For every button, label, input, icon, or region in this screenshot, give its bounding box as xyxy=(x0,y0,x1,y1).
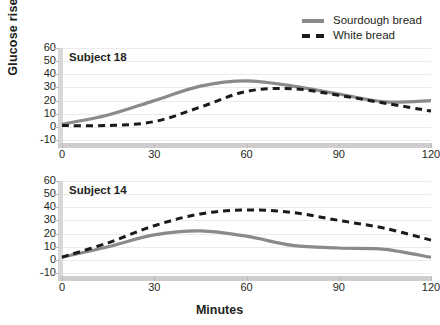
panel-title-subject-18: Subject 18 xyxy=(69,51,127,63)
series-line xyxy=(62,81,431,124)
legend-label-sourdough: Sourdough bread xyxy=(333,14,422,27)
y-tick-mark xyxy=(54,260,59,261)
panel-title-subject-14: Subject 14 xyxy=(69,184,127,196)
y-tick-mark xyxy=(54,247,59,248)
y-tick-label: 50 xyxy=(30,55,56,66)
y-tick-label: 10 xyxy=(30,108,56,119)
y-tick-mark xyxy=(54,181,59,182)
y-tick-labels-bottom: 6050403020100-10 xyxy=(26,181,56,273)
y-tick-mark xyxy=(54,273,59,274)
y-tick-label: -10 xyxy=(30,267,56,278)
y-tick-label: 0 xyxy=(30,254,56,265)
x-tick-label: 0 xyxy=(59,148,65,160)
y-tick-label: 40 xyxy=(30,201,56,212)
y-tick-mark xyxy=(54,234,59,235)
y-tick-labels-top: 6050403020100-10 xyxy=(26,48,56,140)
y-tick-label: 30 xyxy=(30,214,56,225)
y-tick-label: 10 xyxy=(30,241,56,252)
x-tick-label: 90 xyxy=(333,281,345,293)
x-tick-label: 30 xyxy=(148,148,160,160)
x-tick-label: 60 xyxy=(240,148,252,160)
y-tick-label: 60 xyxy=(30,175,56,186)
y-tick-mark xyxy=(54,114,59,115)
y-tick-label: 40 xyxy=(30,68,56,79)
y-tick-mark xyxy=(54,61,59,62)
chart-panel-subject-18: 6050403020100-10 Subject 18 0306090120 xyxy=(41,48,431,146)
y-tick-label: 60 xyxy=(30,42,56,53)
x-tick-labels-bottom: 0306090120 xyxy=(62,281,431,297)
y-tick-mark xyxy=(54,74,59,75)
x-tick-label: 30 xyxy=(148,281,160,293)
y-tick-mark xyxy=(54,220,59,221)
x-axis-title: Minutes xyxy=(0,303,439,317)
legend-item-sourdough: Sourdough bread xyxy=(300,13,439,28)
series-line xyxy=(62,231,431,257)
x-tick-label: 0 xyxy=(59,281,65,293)
x-tick-label: 120 xyxy=(422,281,440,293)
chart-legend: Sourdough bread White bread xyxy=(300,13,439,43)
legend-item-white: White bread xyxy=(300,28,439,43)
chart-panel-subject-14: 6050403020100-10 Subject 14 0306090120 xyxy=(41,181,431,279)
y-tick-mark xyxy=(54,194,59,195)
gridline xyxy=(62,273,431,274)
y-tick-mark xyxy=(54,140,59,141)
y-tick-mark xyxy=(54,127,59,128)
y-tick-mark xyxy=(54,207,59,208)
legend-label-white: White bread xyxy=(333,29,395,42)
x-tick-label: 60 xyxy=(240,281,252,293)
y-axis-title: Glucose rise xyxy=(6,0,20,92)
gridline xyxy=(62,140,431,141)
y-tick-label: -10 xyxy=(30,134,56,145)
solid-line-swatch-icon xyxy=(300,15,326,27)
y-tick-label: 50 xyxy=(30,188,56,199)
y-tick-mark xyxy=(54,101,59,102)
dashed-line-swatch-icon xyxy=(300,30,326,42)
y-tick-mark xyxy=(54,87,59,88)
y-tick-mark xyxy=(54,48,59,49)
x-tick-label: 90 xyxy=(333,148,345,160)
x-tick-labels-top: 0306090120 xyxy=(62,148,431,164)
x-tick-label: 120 xyxy=(422,148,440,160)
y-tick-label: 20 xyxy=(30,228,56,239)
y-tick-label: 0 xyxy=(30,121,56,132)
series-line xyxy=(62,88,431,125)
y-tick-label: 30 xyxy=(30,81,56,92)
y-tick-label: 20 xyxy=(30,95,56,106)
